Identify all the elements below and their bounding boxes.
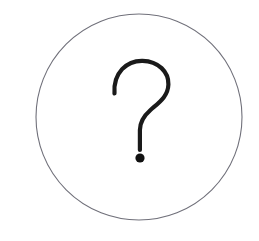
question-mark-stroke <box>114 61 168 150</box>
icon-canvas: ? <box>0 0 259 241</box>
question-mark-dot <box>135 153 144 162</box>
question-mark-icon: ? <box>0 0 259 241</box>
circle-outline <box>36 14 242 220</box>
